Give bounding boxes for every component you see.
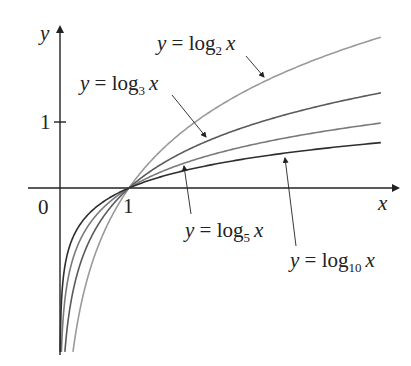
y-tick-label-1: 1 xyxy=(40,110,51,134)
arrow-log3 xyxy=(172,95,206,137)
y-axis-label: y xyxy=(38,21,50,45)
arrow-log10 xyxy=(285,158,296,246)
x-tick-label-1: 1 xyxy=(123,194,134,218)
x-axis-label: x xyxy=(377,191,388,215)
logarithm-graph: y x 0 1 1 y = log2x y = log3x y = log5x … xyxy=(0,0,411,366)
label-log2: y = log2x xyxy=(155,31,236,58)
arrow-log2 xyxy=(246,56,264,77)
label-log10: y = log10x xyxy=(288,248,376,275)
label-log5: y = log5x xyxy=(183,218,264,245)
label-log3: y = log3x xyxy=(78,71,159,98)
arrow-log5 xyxy=(184,166,191,214)
origin-label: 0 xyxy=(38,195,49,219)
